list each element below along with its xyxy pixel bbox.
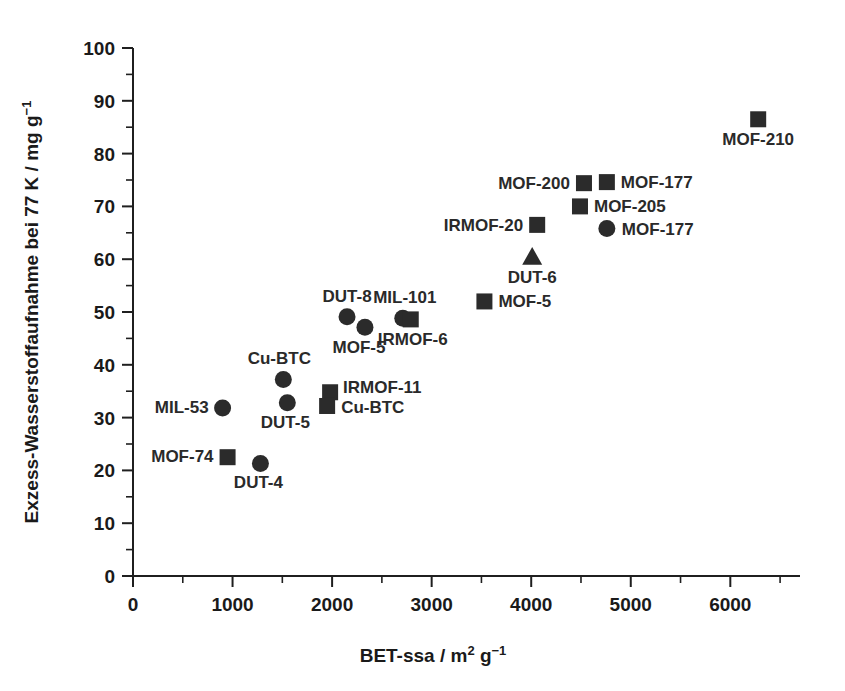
y-tick-label: 80 <box>94 144 115 165</box>
data-point-marker[interactable] <box>750 111 766 127</box>
y-tick-label: 30 <box>94 408 115 429</box>
plot-canvas: 0102030405060708090100010002000300040005… <box>0 0 845 691</box>
x-tick-label: 2000 <box>311 594 353 615</box>
data-point-label: MIL-101 <box>373 288 436 307</box>
data-point-marker[interactable] <box>598 220 615 237</box>
x-tick-label: 5000 <box>610 594 652 615</box>
y-tick-label: 100 <box>83 38 115 59</box>
x-tick-label: 4000 <box>510 594 552 615</box>
data-point-label: IRMOF-11 <box>343 378 421 397</box>
axis-titles-group: BET-ssa / m2 g−1 Exzess-Wasserstoffaufna… <box>19 101 506 666</box>
data-point-label: DUT-5 <box>261 413 310 432</box>
x-axis-title: BET-ssa / m2 g−1 <box>360 643 507 666</box>
y-tick-label: 20 <box>94 460 115 481</box>
x-tick-label: 6000 <box>709 594 751 615</box>
data-point-marker[interactable] <box>599 174 615 190</box>
data-point-marker[interactable] <box>319 398 335 414</box>
data-point-marker[interactable] <box>252 455 269 472</box>
data-point-label: DUT-8 <box>322 287 371 306</box>
data-point-marker[interactable] <box>214 400 231 417</box>
y-tick-label: 60 <box>94 249 115 270</box>
data-point-marker[interactable] <box>529 217 545 233</box>
data-point-marker[interactable] <box>522 247 542 265</box>
data-point-marker[interactable] <box>279 394 296 411</box>
data-point-marker[interactable] <box>339 308 356 325</box>
data-point-label: MOF-177 <box>622 220 694 239</box>
y-tick-label: 90 <box>94 91 115 112</box>
y-tick-label: 70 <box>94 196 115 217</box>
data-point-marker[interactable] <box>572 198 588 214</box>
data-point-marker[interactable] <box>356 319 373 336</box>
data-point-marker[interactable] <box>403 311 419 327</box>
y-tick-label: 50 <box>94 302 115 323</box>
data-point-marker[interactable] <box>476 293 492 309</box>
y-axis-title: Exzess-Wasserstoffaufnahme bei 77 K / mg… <box>19 101 42 524</box>
x-tick-label: 3000 <box>411 594 453 615</box>
data-point-label: MIL-53 <box>155 398 209 417</box>
data-point-label: DUT-4 <box>234 473 284 492</box>
axes-group <box>122 48 800 587</box>
data-point-label: MOF-177 <box>621 173 693 192</box>
data-point-marker[interactable] <box>220 449 236 465</box>
data-point-label: DUT-6 <box>508 268 557 287</box>
y-tick-label: 40 <box>94 355 115 376</box>
x-tick-label: 1000 <box>211 594 253 615</box>
scatter-chart-figure: 0102030405060708090100010002000300040005… <box>0 0 845 691</box>
data-point-label: MOF-74 <box>151 447 214 466</box>
data-points-group: MIL-53MOF-74DUT-4Cu-BTCDUT-5IRMOF-11Cu-B… <box>151 111 794 491</box>
data-point-label: IRMOF-6 <box>378 330 448 349</box>
data-point-label: IRMOF-20 <box>444 216 523 235</box>
y-tick-label: 10 <box>94 513 115 534</box>
data-point-marker[interactable] <box>275 371 292 388</box>
data-point-label: Cu-BTC <box>341 398 404 417</box>
data-point-marker[interactable] <box>576 175 592 191</box>
data-point-label: MOF-5 <box>498 292 551 311</box>
data-point-marker[interactable] <box>322 384 338 400</box>
x-tick-label: 0 <box>128 594 139 615</box>
data-point-label: MOF-205 <box>594 197 666 216</box>
data-point-label: MOF-200 <box>498 174 570 193</box>
y-tick-label: 0 <box>104 566 115 587</box>
data-point-label: Cu-BTC <box>248 349 311 368</box>
data-point-label: MOF-210 <box>722 130 794 149</box>
